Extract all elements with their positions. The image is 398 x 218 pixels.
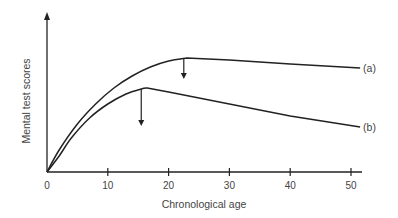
series-label-a: (a) [363, 62, 376, 74]
y-axis-arrow-icon [44, 12, 50, 20]
x-tick-label: 40 [285, 180, 297, 191]
x-tick-label: 10 [102, 180, 114, 191]
series-label-b: (b) [363, 121, 376, 133]
y-axis-title: Mental test scores [20, 58, 32, 143]
down-arrow-icon [138, 120, 144, 126]
x-tick-label: 0 [44, 180, 50, 191]
x-tick-label: 50 [345, 180, 357, 191]
x-tick-label: 30 [224, 180, 236, 191]
mental-age-chart: 01020304050 (a)(b) Chronological age Men… [0, 0, 398, 218]
x-axis-title: Chronological age [162, 198, 247, 210]
chart-svg: 01020304050 (a)(b) Chronological age Men… [0, 0, 398, 218]
series-line-b [47, 88, 360, 172]
down-arrow-icon [181, 73, 187, 79]
x-tick-label: 20 [163, 180, 175, 191]
series-group: (a)(b) [47, 58, 376, 172]
axes: 01020304050 [44, 12, 362, 191]
